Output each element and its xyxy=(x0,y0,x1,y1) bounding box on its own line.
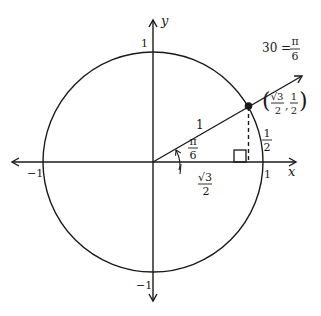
x-tick-1: 1 xyxy=(264,168,271,181)
point-label-open-paren: ( xyxy=(262,88,271,113)
adjacent-label-num: √3 xyxy=(198,171,212,184)
angle-label-num: π xyxy=(189,135,196,148)
point-label-close-paren: ) xyxy=(299,88,308,113)
point-label-x-num: √3 xyxy=(271,91,284,102)
x-tick-neg1: −1 xyxy=(27,167,43,180)
ray-label-den: 6 xyxy=(292,50,299,63)
point-label-y-den: 2 xyxy=(291,105,297,116)
adjacent-label-den: 2 xyxy=(203,185,210,198)
ray-label-num: π xyxy=(291,35,298,48)
opposite-label-den: 2 xyxy=(264,141,271,154)
y-tick-neg1: −1 xyxy=(136,279,152,292)
opposite-label-num: 1 xyxy=(264,127,271,140)
terminal-ray xyxy=(153,76,302,162)
point-label-sep: , xyxy=(285,99,289,112)
point-label-x-den: 2 xyxy=(275,105,281,116)
ray-label-lhs: 30 = xyxy=(262,41,291,55)
hypotenuse-label: 1 xyxy=(196,118,204,132)
point-on-circle xyxy=(245,102,253,110)
point-label-y-num: 1 xyxy=(291,91,297,102)
right-angle-marker xyxy=(234,150,246,162)
x-axis-label: x xyxy=(288,164,296,179)
angle-label-den: 6 xyxy=(190,149,197,162)
angle-arc xyxy=(176,150,180,170)
y-axis-label: y xyxy=(160,13,169,28)
unit-circle-diagram: y x 1 −1 1 −1 30 = π 6 1 π 6 √3 2 1 2 ( … xyxy=(0,0,321,316)
y-tick-1: 1 xyxy=(141,37,148,50)
